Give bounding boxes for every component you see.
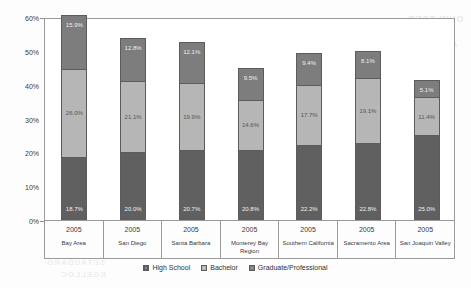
x-axis-category-cell: 2005Sacramento Area [338,221,397,258]
bar-segment: 19.1% [355,78,381,143]
x-axis-category-cell: 2005San Diego [104,221,163,258]
x-axis-year-label: 2005 [125,224,141,236]
bar-segment-value-label: 20.0% [121,206,145,212]
bar-segment-value-label: 12.8% [121,45,145,51]
y-axis-tick-label: 60% [25,15,39,22]
bar-segment: 11.4% [414,97,440,136]
x-axis-region-label: Santa Barbara [171,239,212,247]
x-axis-year-label: 2005 [359,224,375,236]
bar-segment-value-label: 20.7% [180,206,204,212]
y-axis-tick-label: 50% [25,48,39,55]
x-axis-region-label: San Diego [117,239,147,247]
x-axis-category-cell: 2005Monterey Bay Region [221,221,280,258]
x-axis-category-table: 2005Bay Area2005San Diego2005Santa Barba… [44,221,455,259]
legend-label: High School [152,264,190,271]
chart-legend: High SchoolBachelorGraduate/Professional [0,264,471,271]
stacked-bar: 12.1%19.9%20.7% [179,42,205,220]
bar-segment-value-label: 20.8% [239,206,263,212]
bar-segment-value-label: 22.8% [356,206,380,212]
bar-segment-value-label: 26.0% [62,110,86,116]
x-axis-region-label: Monterey Bay Region [221,239,279,255]
y-axis-tick-label: 40% [25,82,39,89]
x-axis-category-cell: 2005Southern California [279,221,338,258]
bar-segment-value-label: 9.5% [239,75,263,81]
bar-segment-value-label: 21.1% [121,114,145,120]
bar-segment-value-label: 11.4% [415,114,439,120]
bar-segment: 18.7% [61,157,87,220]
bar-segment: 20.0% [120,152,146,220]
bar-segment-value-label: 12.1% [180,49,204,55]
bar-segment-value-label: 5.1% [415,87,439,93]
bar-segment: 12.8% [120,38,146,81]
y-axis: 0%10%20%30%40%50%60% [0,18,44,221]
legend-swatch-icon [249,265,255,271]
bar-segment: 17.7% [296,85,322,145]
bar-segment: 22.2% [296,145,322,220]
bar-segment-value-label: 8.1% [356,58,380,64]
bar-segment-value-label: 9.4% [297,60,321,66]
bar-segment: 9.5% [238,68,264,100]
bar-segment-value-label: 17.7% [297,112,321,118]
y-axis-tick-label: 10% [25,184,39,191]
legend-swatch-icon [143,265,149,271]
bar-segment-value-label: 25.0% [415,206,439,212]
stacked-bar: 8.1%19.1%22.8% [355,51,381,220]
legend-label: Bachelor [210,264,238,271]
bar-segment: 5.1% [414,80,440,97]
x-axis-region-label: Bay Area [61,239,87,247]
y-axis-tick-label: 30% [25,116,39,123]
bar-segment: 21.1% [120,81,146,152]
bar-segment-value-label: 22.2% [297,206,321,212]
stacked-bar: 5.1%11.4%25.0% [414,80,440,220]
stacked-bar: 15.9%26.0%18.7% [61,15,87,220]
legend-item: Bachelor [201,264,238,271]
bar-segment: 26.0% [61,69,87,157]
bar-segment: 8.1% [355,51,381,78]
bar-segment-value-label: 19.1% [356,108,380,114]
stacked-bar: 9.4%17.7%22.2% [296,53,322,220]
legend-item: High School [143,264,190,271]
x-axis-category-cell: 2005Santa Barbara [162,221,221,258]
bar-segment: 20.7% [179,150,205,220]
legend-swatch-icon [201,265,207,271]
legend-item: Graduate/Professional [249,264,328,271]
x-axis-region-label: Southern California [281,239,334,247]
bar-segment-value-label: 18.7% [62,206,86,212]
bars-layer: 15.9%26.0%18.7%12.8%21.1%20.0%12.1%19.9%… [45,19,454,220]
y-axis-tick-label: 20% [25,150,39,157]
bar-segment: 22.8% [355,143,381,220]
x-axis-year-label: 2005 [183,224,199,236]
x-axis-year-label: 2005 [417,224,433,236]
x-axis-category-cell: 2005San Joaquin Valley [396,221,454,258]
x-axis-year-label: 2005 [66,224,82,236]
y-axis-tick-label: 0% [29,218,39,225]
plot-area: 15.9%26.0%18.7%12.8%21.1%20.0%12.1%19.9%… [44,18,455,221]
bleed-through-text: EGELLOC [60,270,106,279]
bar-segment: 14.6% [238,100,264,149]
bar-segment: 25.0% [414,135,440,220]
chart-container: OHW TSEB SROTCOD AINROFILAC SETAUDARG EG… [0,0,471,288]
x-axis-region-label: Sacramento Area [343,239,391,247]
bar-segment-value-label: 14.6% [239,122,263,128]
bar-segment: 20.8% [238,150,264,220]
x-axis-year-label: 2005 [300,224,316,236]
stacked-bar: 9.5%14.6%20.8% [238,68,264,220]
x-axis-category-cell: 2005Bay Area [45,221,104,258]
bar-segment-value-label: 19.9% [180,114,204,120]
bar-segment-value-label: 15.9% [62,22,86,28]
bar-segment: 19.9% [179,83,205,150]
bar-segment: 9.4% [296,53,322,85]
x-axis-year-label: 2005 [242,224,258,236]
bar-segment: 12.1% [179,42,205,83]
x-axis-region-label: San Joaquin Valley [399,239,452,247]
legend-label: Graduate/Professional [258,264,328,271]
bar-segment: 15.9% [61,15,87,69]
stacked-bar: 12.8%21.1%20.0% [120,38,146,220]
